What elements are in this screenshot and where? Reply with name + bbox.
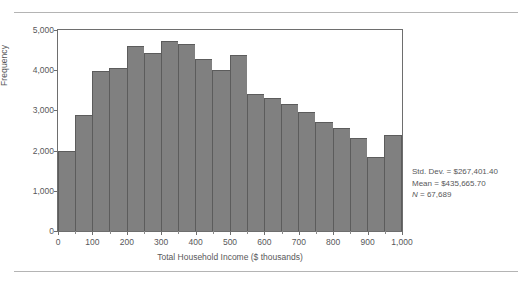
x-tick-mark bbox=[110, 231, 111, 234]
x-tick-mark bbox=[213, 231, 214, 234]
histogram-bar bbox=[367, 157, 384, 231]
y-tick-label: 2,000 bbox=[33, 146, 54, 156]
y-tick-mark bbox=[54, 110, 58, 111]
histogram-bar bbox=[144, 53, 161, 231]
histogram-bar bbox=[384, 135, 402, 231]
x-tick-mark bbox=[230, 231, 231, 235]
n-value: = 67,689 bbox=[418, 190, 452, 199]
x-tick-label: 900 bbox=[361, 237, 375, 247]
histogram-bar bbox=[298, 112, 315, 231]
histogram-bar bbox=[230, 55, 247, 231]
histogram-bar bbox=[281, 104, 298, 231]
y-tick-label: 5,000 bbox=[33, 25, 54, 35]
x-tick-mark bbox=[178, 231, 179, 234]
y-tick-label: 4,000 bbox=[33, 65, 54, 75]
x-tick-label: 100 bbox=[85, 237, 99, 247]
x-tick-label: 1,000 bbox=[391, 237, 412, 247]
histogram-bar bbox=[58, 151, 75, 231]
histogram-bar bbox=[92, 71, 109, 231]
x-tick-mark bbox=[264, 231, 265, 235]
x-tick-mark bbox=[368, 231, 369, 235]
x-tick-label: 300 bbox=[154, 237, 168, 247]
histogram-bar bbox=[350, 138, 367, 231]
histogram-bar bbox=[247, 94, 264, 231]
x-tick-mark bbox=[282, 231, 283, 234]
y-tick-mark bbox=[54, 151, 58, 152]
x-tick-mark bbox=[350, 231, 351, 234]
histogram-bar bbox=[161, 41, 178, 231]
x-tick-mark bbox=[127, 231, 128, 235]
x-tick-label: 400 bbox=[189, 237, 203, 247]
histogram-bar bbox=[195, 59, 212, 231]
n-text: N = 67,689 bbox=[412, 189, 498, 201]
y-tick-mark bbox=[54, 191, 58, 192]
plot-area: 01,0002,0003,0004,0005,000 0100200300400… bbox=[57, 29, 403, 232]
x-tick-mark bbox=[385, 231, 386, 234]
histogram-figure: Frequency 01,0002,0003,0004,0005,000 010… bbox=[0, 0, 532, 284]
x-tick-mark bbox=[316, 231, 317, 234]
histogram-bar bbox=[333, 128, 350, 231]
x-tick-mark bbox=[402, 231, 403, 235]
histogram-bar bbox=[127, 46, 144, 231]
x-tick-mark bbox=[144, 231, 145, 234]
x-tick-mark bbox=[299, 231, 300, 235]
x-tick-mark bbox=[58, 231, 59, 235]
y-tick-label: 1,000 bbox=[33, 186, 54, 196]
histogram-bar bbox=[212, 70, 229, 231]
x-tick-mark bbox=[247, 231, 248, 234]
y-axis-label: Frequency bbox=[0, 45, 9, 86]
statistics-annotation: Std. Dev. = $267,401.40 Mean = $435,665.… bbox=[412, 166, 498, 201]
y-tick-mark bbox=[54, 30, 58, 31]
x-tick-label: 600 bbox=[257, 237, 271, 247]
y-tick-label: 3,000 bbox=[33, 105, 54, 115]
histogram-bar bbox=[178, 44, 195, 231]
x-tick-label: 0 bbox=[56, 237, 61, 247]
x-tick-mark bbox=[333, 231, 334, 235]
std-dev-text: Std. Dev. = $267,401.40 bbox=[412, 166, 498, 178]
histogram-bar bbox=[315, 122, 332, 231]
histogram-bar bbox=[75, 115, 92, 231]
histogram-bar bbox=[109, 68, 126, 231]
x-tick-mark bbox=[92, 231, 93, 235]
histogram-bar bbox=[264, 98, 281, 231]
x-tick-label: 500 bbox=[223, 237, 237, 247]
x-tick-mark bbox=[196, 231, 197, 235]
x-tick-mark bbox=[75, 231, 76, 234]
x-tick-label: 200 bbox=[120, 237, 134, 247]
x-axis-label: Total Household Income ($ thousands) bbox=[57, 252, 403, 262]
x-tick-label: 700 bbox=[292, 237, 306, 247]
x-tick-mark bbox=[161, 231, 162, 235]
mean-text: Mean = $435,665.70 bbox=[412, 178, 498, 190]
bar-series bbox=[58, 30, 402, 231]
y-tick-mark bbox=[54, 70, 58, 71]
x-tick-label: 800 bbox=[326, 237, 340, 247]
